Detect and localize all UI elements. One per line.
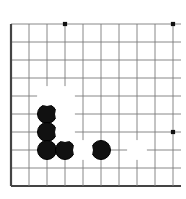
- black-stone[interactable]: [37, 140, 57, 160]
- black-stone[interactable]: [91, 140, 111, 160]
- white-stone[interactable]: [55, 86, 75, 106]
- white-stone[interactable]: [73, 140, 93, 160]
- white-stone[interactable]: [127, 140, 147, 160]
- star-point: [63, 22, 67, 26]
- star-point: [171, 130, 175, 134]
- go-board-figure: [0, 0, 186, 199]
- board-grid: [0, 0, 186, 199]
- black-stone[interactable]: [37, 104, 57, 124]
- white-stone[interactable]: [55, 122, 75, 142]
- white-stone[interactable]: [55, 104, 75, 124]
- black-stone[interactable]: [55, 140, 75, 160]
- black-stone[interactable]: [37, 122, 57, 142]
- goban[interactable]: [0, 0, 186, 199]
- star-point: [171, 22, 175, 26]
- white-stone[interactable]: [37, 86, 57, 106]
